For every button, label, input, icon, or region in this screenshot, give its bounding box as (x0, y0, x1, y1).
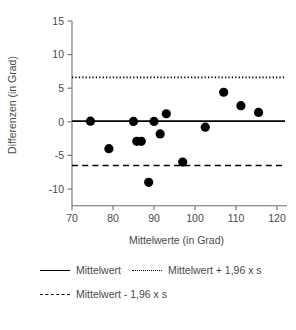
legend-entry-upper-limit: Mittelwert + 1,96 x s (132, 264, 262, 276)
x-tick-label: 100 (186, 212, 204, 224)
data-point (178, 158, 187, 167)
legend-row: Mittelwert Mittelwert + 1,96 x s (0, 258, 296, 282)
y-tick-label: 15 (52, 15, 64, 27)
axes-layer: 151050-5-10708090100110120 (49, 15, 287, 225)
legend-entry-label: Mittelwert (76, 264, 121, 276)
data-point (254, 108, 263, 117)
data-point (219, 88, 228, 97)
data-points-layer (86, 88, 263, 187)
y-axis-title: Differenzen (in Grad) (6, 56, 18, 154)
data-point (149, 117, 158, 126)
scatter-plot-svg: 151050-5-10708090100110120 Mittelwerte (… (0, 0, 296, 255)
data-point (86, 117, 95, 126)
data-point (156, 129, 165, 138)
data-point (104, 144, 113, 153)
y-tick-label: 10 (52, 48, 64, 60)
solid-line-icon (40, 265, 70, 275)
legend-entry-mean: Mittelwert (40, 264, 121, 276)
x-tick-label: 80 (107, 212, 119, 224)
y-tick-label: -5 (55, 149, 64, 161)
data-point (162, 109, 171, 118)
data-point (144, 178, 153, 187)
y-tick-label: 0 (58, 116, 64, 128)
legend-entry-label: Mittelwert + 1,96 x s (168, 264, 262, 276)
plot-area: 151050-5-10708090100110120 Mittelwerte (… (0, 0, 296, 255)
legend: Mittelwert Mittelwert + 1,96 x s Mittelw… (0, 258, 296, 326)
x-tick-label: 70 (66, 212, 78, 224)
data-point (201, 123, 210, 132)
y-tick-label: -10 (49, 183, 64, 195)
reference-lines-layer (72, 77, 285, 165)
x-axis-title: Mittelwerte (in Grad) (129, 234, 224, 246)
legend-entry-label: Mittelwert - 1,96 x s (76, 288, 167, 300)
data-point (137, 137, 146, 146)
x-tick-label: 110 (228, 212, 245, 224)
legend-row: Mittelwert - 1,96 x s (0, 282, 296, 306)
data-point (129, 117, 138, 126)
dashed-line-icon (40, 289, 70, 299)
x-tick-label: 120 (268, 212, 286, 224)
data-point (236, 101, 245, 110)
y-tick-label: 5 (58, 82, 64, 94)
bland-altman-figure: 151050-5-10708090100110120 Mittelwerte (… (0, 0, 296, 330)
legend-entry-lower-limit: Mittelwert - 1,96 x s (40, 288, 167, 300)
dotted-line-icon (132, 265, 162, 275)
x-tick-label: 90 (148, 212, 160, 224)
